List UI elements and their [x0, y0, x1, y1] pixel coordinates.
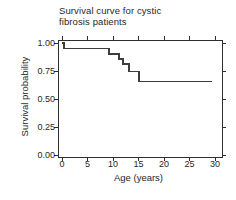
x-tick-label: 20 [159, 159, 169, 169]
y-tick-label: 0.75 [28, 66, 55, 76]
x-tick-label: 25 [184, 159, 194, 169]
x-tick-label: 15 [133, 159, 143, 169]
x-tick-label: 30 [210, 159, 220, 169]
y-tick-label: 1.00 [28, 38, 55, 48]
y-tick-label: 0.00 [28, 150, 55, 160]
x-tick-label: 5 [85, 159, 90, 169]
x-tick-label: 10 [108, 159, 118, 169]
y-tick-label: 0.50 [28, 94, 55, 104]
plot-frame [58, 40, 222, 157]
survival-chart-figure: Survival curve for cystic fibrosis patie… [0, 0, 236, 200]
y-tick-label: 0.25 [28, 122, 55, 132]
survival-curve [62, 43, 212, 82]
x-tick-label: 0 [59, 159, 64, 169]
x-axis-title: Age (years) [62, 172, 215, 183]
